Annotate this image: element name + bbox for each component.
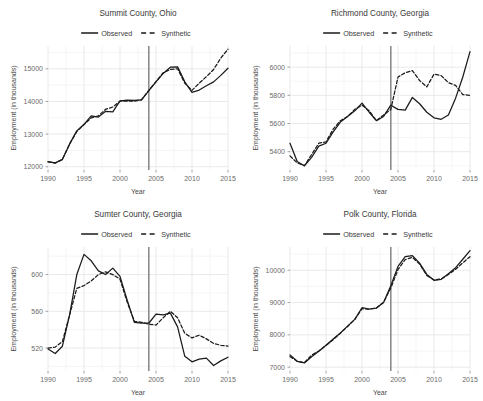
chart-3: 1990199520002005201020157000800090001000… [242, 201, 483, 401]
y-tick-label: 8000 [269, 331, 285, 338]
x-tick-label: 1990 [40, 376, 56, 383]
x-tick-label: 2010 [426, 175, 442, 182]
x-axis-title: Year [131, 188, 146, 195]
legend: ObservedSynthetic [323, 29, 433, 38]
x-tick-label: 2005 [390, 175, 406, 182]
x-tick-label: 2000 [354, 376, 370, 383]
y-axis-title: Employment (in thousands) [252, 65, 260, 150]
legend: ObservedSynthetic [81, 229, 191, 238]
y-tick-label: 13000 [24, 131, 44, 138]
legend-label-synthetic: Synthetic [161, 29, 191, 38]
x-tick-label: 2015 [220, 175, 236, 182]
x-tick-label: 2000 [354, 175, 370, 182]
x-tick-label: 2010 [184, 376, 200, 383]
chart-grid: 1990199520002005201020151200013000140001… [0, 0, 483, 401]
x-tick-label: 2015 [220, 376, 236, 383]
y-tick-label: 5800 [269, 92, 285, 99]
panel-title: Summit County, Ohio [99, 9, 177, 18]
x-tick-label: 1995 [76, 376, 92, 383]
x-tick-label: 2005 [148, 376, 164, 383]
y-tick-label: 5600 [269, 120, 285, 127]
y-tick-label: 5400 [269, 148, 285, 155]
legend-label-synthetic: Synthetic [403, 29, 433, 38]
y-tick-label: 15000 [24, 65, 44, 72]
y-tick-label: 7000 [269, 363, 285, 370]
x-tick-label: 2010 [184, 175, 200, 182]
y-axis-title: Employment (in thousands) [10, 266, 18, 351]
y-tick-label: 6000 [269, 64, 285, 71]
legend: ObservedSynthetic [81, 29, 191, 38]
y-tick-label: 14000 [24, 98, 44, 105]
legend-label-observed: Observed [343, 229, 374, 238]
chart-0: 1990199520002005201020151200013000140001… [0, 0, 241, 200]
panel-polk-county-florida: 1990199520002005201020157000800090001000… [242, 201, 483, 401]
x-tick-label: 2015 [462, 175, 478, 182]
x-tick-label: 1990 [282, 376, 298, 383]
panel-richmond-county-georgia: 1990199520002005201020155400560058006000… [242, 0, 483, 200]
legend-label-observed: Observed [343, 29, 374, 38]
x-tick-label: 1990 [282, 175, 298, 182]
panel-title: Sumter County, Georgia [94, 210, 182, 219]
y-tick-label: 600 [31, 271, 43, 278]
legend: ObservedSynthetic [323, 229, 433, 238]
x-axis-title: Year [372, 188, 387, 195]
x-tick-label: 1995 [318, 175, 334, 182]
panel-sumter-county-georgia: 199019952000200520102015520560600Sumter … [0, 201, 241, 401]
panel-title: Richmond County, Georgia [330, 9, 429, 18]
x-tick-label: 2005 [390, 376, 406, 383]
y-axis-title: Employment (in thousands) [252, 266, 260, 351]
legend-label-synthetic: Synthetic [403, 229, 433, 238]
x-tick-label: 2010 [426, 376, 442, 383]
x-tick-label: 2015 [462, 376, 478, 383]
x-axis-title: Year [131, 389, 146, 396]
x-tick-label: 1995 [318, 376, 334, 383]
x-tick-label: 2000 [112, 175, 128, 182]
y-tick-label: 10000 [265, 266, 285, 273]
x-tick-label: 2005 [148, 175, 164, 182]
panel-title: Polk County, Florida [343, 210, 417, 219]
legend-label-observed: Observed [101, 229, 132, 238]
x-tick-label: 1995 [76, 175, 92, 182]
y-tick-label: 560 [31, 307, 43, 314]
y-axis-title: Employment (in thousands) [10, 65, 18, 150]
x-tick-label: 1990 [40, 175, 56, 182]
x-tick-label: 2000 [112, 376, 128, 383]
y-tick-label: 520 [31, 344, 43, 351]
panel-summit-county-ohio: 1990199520002005201020151200013000140001… [0, 0, 241, 200]
y-tick-label: 9000 [269, 299, 285, 306]
legend-label-synthetic: Synthetic [161, 229, 191, 238]
x-axis-title: Year [372, 389, 387, 396]
chart-2: 199019952000200520102015520560600Sumter … [0, 201, 241, 401]
chart-1: 1990199520002005201020155400560058006000… [242, 0, 483, 200]
legend-label-observed: Observed [101, 29, 132, 38]
y-tick-label: 12000 [24, 163, 44, 170]
